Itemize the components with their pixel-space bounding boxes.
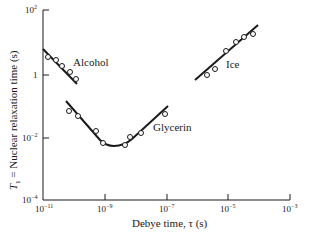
label-glycerin: Glycerin <box>153 121 192 133</box>
y-axis-title: T1 = Nuclear relaxation time (s) <box>7 50 22 190</box>
y-tick-labels: 102 1 10−2 10−4 <box>22 4 38 205</box>
x-axis-title: Debye time, τ (s) <box>132 217 208 230</box>
svg-text:10−11: 10−11 <box>35 203 53 214</box>
chart: 102 1 10−2 10−4 10−11 10−9 10−7 10−5 10−… <box>0 0 310 233</box>
series-ice: Ice <box>195 25 258 80</box>
svg-text:1: 1 <box>33 70 38 80</box>
svg-text:10−9: 10−9 <box>97 203 112 214</box>
svg-text:10−7: 10−7 <box>159 203 174 214</box>
svg-text:102: 102 <box>25 4 37 15</box>
series-glycerin: Glycerin <box>66 101 192 148</box>
label-alcohol: Alcohol <box>73 56 108 68</box>
svg-text:10−3: 10−3 <box>282 203 297 214</box>
svg-text:10−5: 10−5 <box>220 203 235 214</box>
x-tick-labels: 10−11 10−9 10−7 10−5 10−3 <box>35 203 297 214</box>
svg-text:10−2: 10−2 <box>22 132 37 143</box>
series-alcohol: Alcohol <box>43 49 108 84</box>
label-ice: Ice <box>226 58 240 70</box>
